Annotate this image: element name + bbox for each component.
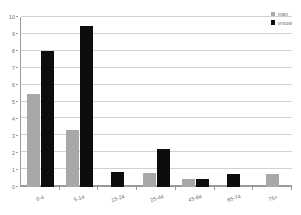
legend-item-vrouw[interactable]: vrouw xyxy=(271,20,292,26)
bar-group xyxy=(60,17,99,187)
y-axis-tick-label: 4 xyxy=(12,116,15,122)
y-axis-tick-label: 1 xyxy=(12,167,15,173)
x-axis-tick-label: 45-64 xyxy=(188,193,203,203)
x-axis-label-cell: 65-74 xyxy=(215,190,254,214)
x-axis-label-cell: 15-24 xyxy=(98,190,137,214)
y-axis-tick xyxy=(16,186,18,187)
y-axis-tick-label: 9 xyxy=(12,31,15,37)
y-axis-tick xyxy=(16,33,18,34)
bar-man-75+[interactable] xyxy=(266,174,279,187)
x-axis-label-cell: 0-4 xyxy=(21,190,60,214)
y-axis-tick xyxy=(16,101,18,102)
x-axis-label-cell: 75+ xyxy=(253,190,292,214)
x-axis-label-cell: 5-14 xyxy=(60,190,99,214)
bar-vrouw-25-44[interactable] xyxy=(157,149,170,187)
bar-chart: 012345678910 0-45-1415-2425-4445-6465-74… xyxy=(0,0,301,215)
bar-vrouw-0-4[interactable] xyxy=(41,51,54,187)
legend-swatch-icon xyxy=(271,20,276,25)
bar-man-25-44[interactable] xyxy=(143,173,156,187)
bar-group xyxy=(21,17,60,187)
y-axis-tick-label: 5 xyxy=(12,99,15,105)
x-axis-label-cell: 45-64 xyxy=(176,190,215,214)
y-axis-tick xyxy=(16,135,18,136)
x-axis-label-cell: 25-44 xyxy=(137,190,176,214)
y-axis-tick xyxy=(16,118,18,119)
x-axis-labels: 0-45-1415-2425-4445-6465-7475+ xyxy=(21,190,292,214)
bar-group xyxy=(98,17,137,187)
legend-label: vrouw xyxy=(278,20,292,26)
y-axis: 012345678910 xyxy=(0,17,18,187)
bar-group xyxy=(253,17,292,187)
bar-series-container xyxy=(21,17,292,187)
y-axis-tick-label: 7 xyxy=(12,65,15,71)
x-axis-tick-label: 0-4 xyxy=(36,194,45,202)
y-axis-tick xyxy=(16,152,18,153)
x-axis-tick-label: 75+ xyxy=(267,194,278,203)
legend-label: man xyxy=(278,11,288,17)
y-axis-tick xyxy=(16,67,18,68)
y-axis-tick xyxy=(16,16,18,17)
bar-vrouw-15-24[interactable] xyxy=(111,172,124,187)
x-axis-tick-label: 25-44 xyxy=(149,193,164,203)
y-axis-tick xyxy=(16,50,18,51)
bar-vrouw-65-74[interactable] xyxy=(227,174,240,187)
y-axis-tick-label: 10 xyxy=(9,14,15,20)
x-axis-tick-label: 5-14 xyxy=(73,193,85,202)
bar-vrouw-5-14[interactable] xyxy=(80,26,93,188)
y-axis-tick-label: 0 xyxy=(12,184,15,190)
bar-man-45-64[interactable] xyxy=(182,179,195,187)
bar-group xyxy=(137,17,176,187)
y-axis-tick xyxy=(16,169,18,170)
y-axis-tick-label: 6 xyxy=(12,82,15,88)
legend-item-man[interactable]: man xyxy=(271,11,292,17)
bar-group xyxy=(176,17,215,187)
bar-group xyxy=(215,17,254,187)
x-axis-tick-label: 65-74 xyxy=(226,193,241,203)
bar-man-0-4[interactable] xyxy=(27,94,40,188)
chart-legend: manvrouw xyxy=(271,11,292,26)
y-axis-tick-label: 8 xyxy=(12,48,15,54)
x-axis-tick-label: 15-24 xyxy=(110,193,125,203)
y-axis-tick xyxy=(16,84,18,85)
y-axis-tick-label: 3 xyxy=(12,133,15,139)
legend-swatch-icon xyxy=(271,12,276,17)
y-axis-tick-label: 2 xyxy=(12,150,15,156)
bar-man-5-14[interactable] xyxy=(66,130,79,187)
bar-vrouw-45-64[interactable] xyxy=(196,179,209,187)
